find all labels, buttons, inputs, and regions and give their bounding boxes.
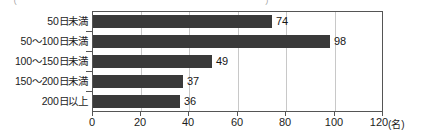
x-axis-unit-label: (名) — [388, 116, 405, 131]
bar-value-2: 49 — [216, 55, 228, 68]
x-axis-label-60: 60 — [231, 116, 243, 128]
bar-4 — [93, 95, 180, 108]
chart-screenshot: （ ） 50日未満 50～100日未満 100～150日未満 150～200日未… — [0, 0, 421, 136]
x-axis-label-100: 100 — [325, 116, 343, 128]
category-label-3: 150～200日未満 — [15, 71, 88, 91]
x-axis-label-80: 80 — [279, 116, 291, 128]
gridline-100 — [335, 12, 336, 111]
x-axis-label-120: 120 — [370, 116, 388, 128]
bar-0 — [93, 15, 272, 28]
horizontal-bar-chart: 50日未満 50～100日未満 100～150日未満 150～200日未満 20… — [0, 8, 421, 136]
bar-value-3: 37 — [187, 75, 199, 88]
bar-value-4: 36 — [184, 95, 196, 108]
bar-value-1: 98 — [334, 35, 346, 48]
title-fragment-text: （ ） — [8, 0, 274, 7]
bar-3 — [93, 75, 183, 88]
category-label-4: 200日以上 — [42, 91, 88, 111]
category-label-0: 50日未満 — [47, 11, 88, 31]
x-axis-label-40: 40 — [182, 116, 194, 128]
bar-2 — [93, 55, 212, 68]
category-label-2: 100～150日未満 — [15, 51, 88, 71]
bar-value-0: 74 — [276, 15, 288, 28]
cut-off-title-strip: （ ） — [0, 0, 421, 8]
category-label-1: 50～100日未満 — [21, 31, 88, 51]
x-axis-label-0: 0 — [89, 116, 95, 128]
bar-1 — [93, 35, 330, 48]
category-axis-labels: 50日未満 50～100日未満 100～150日未満 150～200日未満 20… — [0, 11, 90, 112]
x-axis-label-20: 20 — [134, 116, 146, 128]
plot-area: 74 98 49 37 36 — [92, 11, 383, 112]
